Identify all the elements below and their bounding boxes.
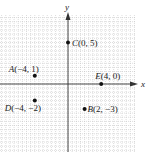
- point-label-e: E(4, 0): [94, 71, 120, 81]
- point-label-b: B(2, −3): [88, 104, 118, 114]
- x-axis-label: x: [140, 79, 145, 89]
- point-label-d: D(−4, −2): [4, 103, 41, 113]
- point-c: [66, 41, 70, 45]
- x-axis-arrow-icon: [130, 82, 138, 87]
- point-b: [83, 107, 87, 111]
- y-axis-arrow-icon: [66, 12, 71, 20]
- point-a: [33, 74, 37, 78]
- point-label-a: A(−4, 1): [8, 64, 39, 74]
- y-axis-label: y: [64, 2, 69, 12]
- coordinate-plane: x y A(−4, 1)C(0, 5)E(4, 0)D(−4, −2)B(2, …: [0, 0, 150, 161]
- point-e: [99, 82, 103, 86]
- points: A(−4, 1)C(0, 5)E(4, 0)D(−4, −2)B(2, −3): [4, 38, 120, 114]
- point-label-c: C(0, 5): [72, 38, 98, 48]
